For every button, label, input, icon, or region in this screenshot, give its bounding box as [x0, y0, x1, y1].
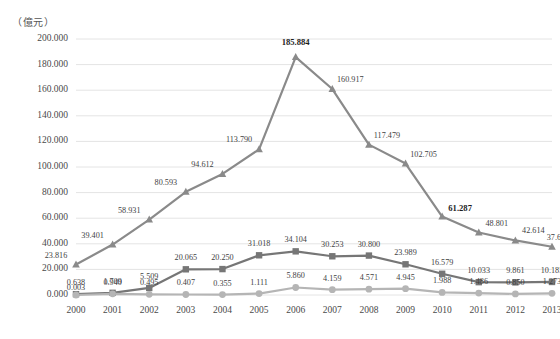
- data-label-series-1: 80.593: [155, 178, 178, 187]
- data-label-series-2: 20.250: [211, 253, 234, 262]
- marker-series-2: [256, 252, 262, 258]
- marker-series-3: [329, 286, 336, 293]
- marker-series-3: [366, 286, 373, 293]
- marker-series-2: [219, 266, 225, 272]
- chart-container: （億元） 0.00020.00040.00060.00080.000100.00…: [0, 0, 560, 339]
- marker-series-1: [292, 53, 300, 60]
- marker-series-1: [255, 145, 263, 152]
- data-label-series-2: 9.861: [506, 266, 524, 275]
- data-label-series-2: 34.104: [284, 235, 307, 244]
- data-label-series-1: 117.479: [374, 131, 400, 140]
- data-label-series-3: 0.940: [103, 278, 121, 287]
- marker-series-3: [73, 292, 80, 299]
- data-label-series-1: 94.612: [191, 160, 214, 169]
- data-label-series-1: 39.401: [81, 231, 104, 240]
- data-label-series-3: 0.850: [506, 278, 524, 287]
- data-label-series-3: 1.988: [433, 276, 451, 285]
- data-label-series-3: 4.571: [360, 273, 378, 282]
- data-label-series-1: 102.705: [410, 150, 437, 159]
- data-label-series-1: 185.884: [282, 37, 310, 47]
- data-label-series-2: 20.065: [175, 253, 198, 262]
- data-label-series-2: 10.185: [541, 266, 560, 275]
- data-label-series-1: 42.614: [522, 226, 545, 235]
- data-label-series-3: 0.355: [213, 279, 231, 288]
- series-lines: [76, 57, 552, 295]
- marker-series-3: [182, 291, 189, 298]
- data-label-series-3: 1.486: [470, 277, 488, 286]
- marker-series-2: [329, 253, 335, 259]
- data-label-series-3: 1.111: [250, 278, 268, 287]
- data-label-series-2: 31.018: [248, 239, 271, 248]
- marker-series-2: [366, 252, 372, 258]
- data-label-series-2: 30.800: [358, 240, 381, 249]
- data-label-series-1: 61.287: [448, 203, 472, 213]
- marker-series-3: [439, 289, 446, 296]
- data-label-series-1: 113.790: [226, 135, 252, 144]
- marker-series-2: [183, 266, 189, 272]
- gridlines: [76, 39, 552, 295]
- marker-series-3: [512, 291, 519, 298]
- data-label-series-3: 5.860: [286, 271, 304, 280]
- data-label-series-2: 30.253: [321, 240, 344, 249]
- marker-series-3: [219, 291, 226, 298]
- data-label-series-1: 48.801: [486, 219, 509, 228]
- data-label-series-2: 23.989: [394, 248, 417, 257]
- data-label-series-3: 4.159: [323, 274, 341, 283]
- marker-series-3: [146, 291, 153, 298]
- data-label-series-3: 1.273: [543, 277, 560, 286]
- data-label-series-1: 58.931: [118, 206, 141, 215]
- marker-series-3: [292, 284, 299, 291]
- data-label-series-1: 160.917: [337, 75, 364, 84]
- data-label-series-3: 0.495: [140, 278, 158, 287]
- data-label-series-2: 10.033: [468, 266, 491, 275]
- marker-series-3: [402, 285, 409, 292]
- marker-series-2: [402, 261, 408, 267]
- marker-series-2: [292, 248, 298, 254]
- marker-series-3: [475, 290, 482, 297]
- data-label-series-2: 16.579: [431, 258, 454, 267]
- data-label-series-3: 4.945: [396, 273, 414, 282]
- marker-series-3: [109, 290, 116, 297]
- marker-series-3: [549, 290, 556, 297]
- data-label-series-3: 0.407: [177, 278, 195, 287]
- data-label-series-3: 0.003: [67, 283, 85, 292]
- data-label-series-1: 23.816: [45, 251, 68, 260]
- data-label-series-1: 37.682: [547, 233, 560, 242]
- marker-series-3: [256, 290, 263, 297]
